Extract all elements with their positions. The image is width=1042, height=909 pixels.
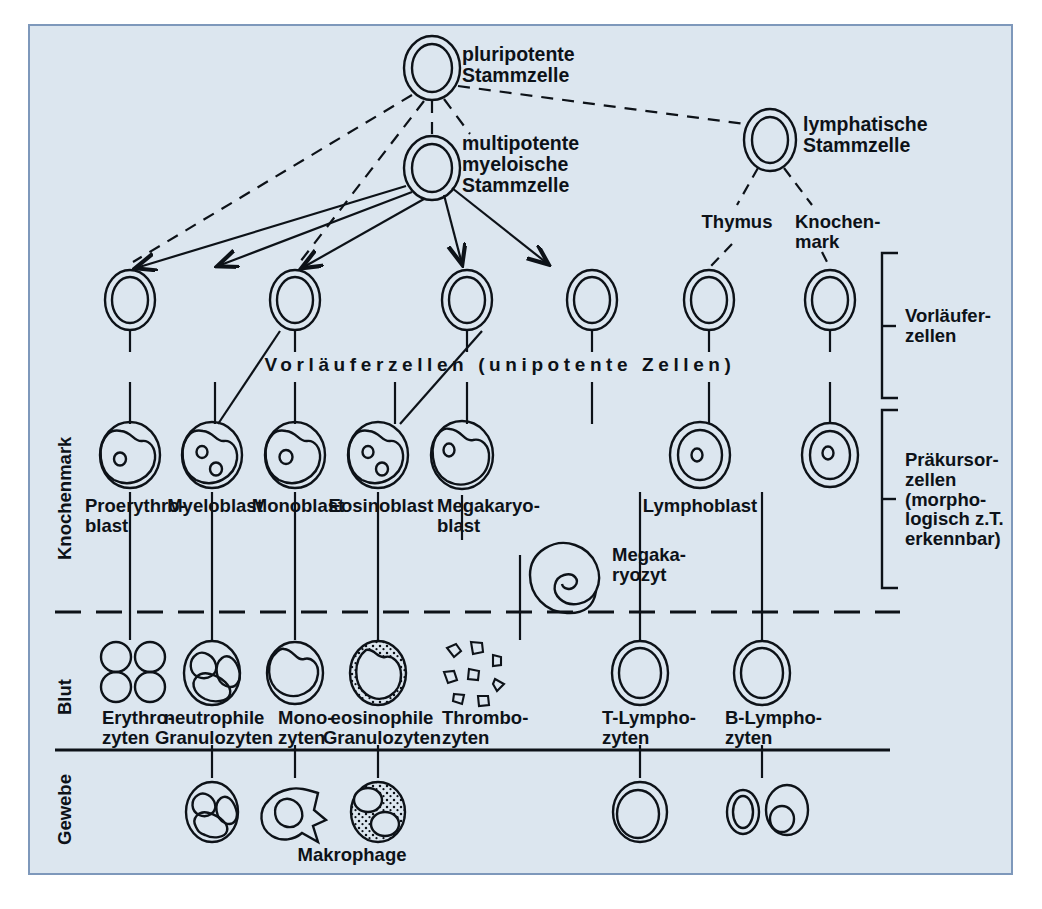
label-vorlaeuferzellen-band: Vorläuferzellen (unipotente Zellen) <box>264 355 735 375</box>
cell-lymphoblast-t <box>670 422 730 488</box>
bracket-vorlaeuferzellen <box>882 253 898 398</box>
lineage-links-pluripotent <box>133 86 745 262</box>
label-knochenmark-organ: Knochen- mark <box>795 212 880 252</box>
label-t-lymphozyten: T-Lympho- zyten <box>602 708 696 748</box>
label-makrophage: Makrophage <box>298 845 407 865</box>
label-megakaryozyt: Megaka- ryozyt <box>612 545 686 585</box>
cell-erythrozyten <box>101 642 165 702</box>
bracket-label-praekursorzellen: Präkursor- zellen (morpho- logisch z.T. … <box>905 450 1004 549</box>
blood-cells <box>101 641 790 706</box>
label-pluripotente-stammzelle: pluripotente Stammzelle <box>462 44 575 86</box>
cell-makrophage <box>261 788 326 842</box>
cell-tissue-eosinophiler-granulozyt <box>351 782 405 842</box>
cell-lymphoblast-b <box>802 423 858 487</box>
cell-monoblast <box>265 422 325 488</box>
connectors-angled <box>218 331 482 424</box>
cell-tissue-t-lymphozyt <box>613 782 667 842</box>
label-megakaryoblast: Megakaryo- blast <box>437 496 540 536</box>
cell-neutrophiler-granulozyt <box>184 641 240 705</box>
compartment-label-knochenmark: Knochenmark <box>54 437 76 560</box>
bracket-label-vorlaeuferzellen: Vorläufer- zellen <box>905 306 991 346</box>
cell-multipotent-myeloid-stem <box>404 136 460 200</box>
cell-pluripotent-stem <box>404 36 460 100</box>
cell-monozyt <box>267 642 323 704</box>
label-thrombozyten: Thrombo- zyten <box>442 708 528 748</box>
tissue-cells <box>186 782 808 842</box>
cell-myeloblast <box>182 422 242 488</box>
connectors-band-precursor <box>130 382 830 424</box>
cell-b-lymphozyt <box>734 641 790 705</box>
cell-megakaryoblast <box>431 421 493 489</box>
cell-lymphatic-stem <box>744 109 796 171</box>
cell-plasmazelle <box>766 785 808 835</box>
cell-tissue-b-lymphozyt <box>727 790 759 834</box>
cell-t-lymphozyt <box>612 641 668 705</box>
lineage-links-myeloid <box>136 186 548 268</box>
label-lymphoblast: Lymphoblast <box>643 496 757 516</box>
cell-eosinoblast <box>348 422 408 488</box>
label-lymphatische-stammzelle: lymphatische Stammzelle <box>803 114 928 156</box>
figure-canvas: Knochenmark Blut Gewebe pluripotente Sta… <box>0 0 1042 909</box>
compartment-label-gewebe: Gewebe <box>54 774 76 845</box>
label-multipotente-myeloische-stammzelle: multipotente myeloische Stammzelle <box>462 133 579 196</box>
label-thymus: Thymus <box>702 212 773 232</box>
label-myeloblast: Myeloblast <box>167 496 263 516</box>
cell-eosinophiler-granulozyt <box>350 641 406 705</box>
label-neutrophile-granulozyten: neutrophile Granulozyten <box>155 708 273 748</box>
compartment-label-blut: Blut <box>54 679 76 715</box>
progenitor-cells <box>105 270 855 330</box>
label-b-lymphozyten: B-Lympho- zyten <box>725 708 822 748</box>
precursor-cells <box>100 421 858 489</box>
cell-proerythroblast <box>100 422 160 488</box>
bracket-praekursorzellen <box>882 410 898 588</box>
label-eosinoblast: Eosinoblast <box>329 496 434 516</box>
cell-tissue-granulozyt <box>186 782 238 842</box>
cell-megakaryozyt <box>530 543 599 613</box>
cell-thrombozyten <box>444 642 504 706</box>
label-eosinophile-granulozyten: eosinophile Granulozyten <box>323 708 441 748</box>
